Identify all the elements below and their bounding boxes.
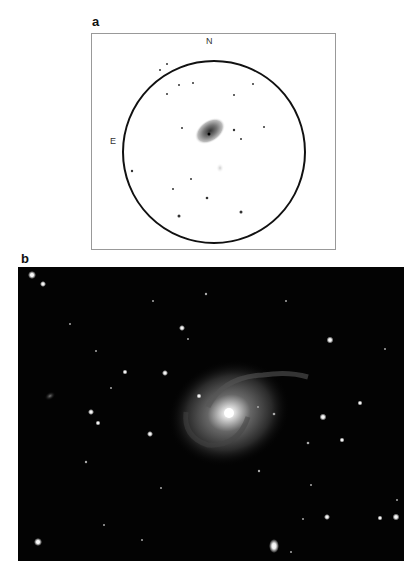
compass-north-label: N — [206, 37, 213, 46]
observing-sketch-panel: N E — [91, 33, 336, 250]
galaxy-photograph — [18, 267, 404, 561]
panel-a-label: a — [92, 15, 99, 28]
sketch-drawing — [92, 34, 337, 251]
eyepiece-field-circle — [123, 61, 305, 243]
panel-b-label: b — [21, 252, 29, 265]
galaxy-sketch — [190, 112, 230, 150]
photo-render — [18, 267, 404, 561]
compass-east-label: E — [110, 137, 116, 146]
